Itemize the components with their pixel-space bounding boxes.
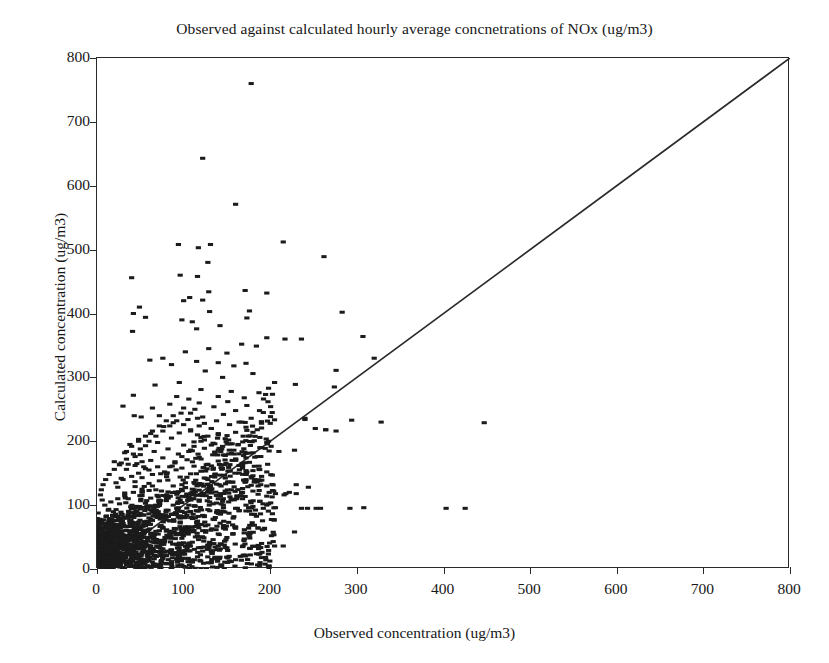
scatter-point: [124, 458, 129, 461]
scatter-point: [240, 487, 245, 490]
scatter-point: [196, 246, 201, 249]
scatter-point: [305, 507, 310, 510]
scatter-point: [136, 472, 141, 475]
x-axis-tick-label: 800: [759, 580, 819, 598]
scatter-point: [129, 475, 134, 478]
scatter-point: [250, 372, 255, 375]
scatter-point: [133, 455, 138, 458]
scatter-point: [155, 441, 160, 444]
scatter-point: [139, 476, 144, 479]
scatter-point: [153, 435, 158, 438]
scatter-point: [243, 504, 248, 507]
y-axis-tick-label: 800: [44, 48, 90, 66]
scatter-point: [206, 290, 211, 293]
scatter-point: [217, 324, 222, 327]
y-axis-tick: [90, 569, 97, 570]
scatter-point: [102, 504, 107, 507]
scatter-point: [299, 338, 304, 341]
scatter-point: [186, 398, 191, 401]
scatter-point: [211, 405, 216, 408]
x-axis-tick-label: 0: [66, 580, 126, 598]
scatter-point: [257, 446, 262, 449]
scatter-point: [250, 431, 255, 434]
scatter-point: [115, 497, 120, 500]
scatter-point: [141, 465, 146, 468]
scatter-point: [360, 335, 365, 338]
y-axis-tick: [90, 122, 97, 123]
scatter-point: [188, 412, 193, 415]
scatter-point: [257, 436, 262, 439]
scatter-canvas: [97, 58, 790, 569]
scatter-point: [272, 381, 277, 384]
scatter-point: [178, 476, 183, 479]
scatter-point: [333, 430, 338, 433]
scatter-point: [191, 465, 196, 468]
scatter-point: [249, 82, 254, 85]
scatter-point: [197, 500, 202, 503]
scatter-point: [216, 395, 221, 398]
x-axis-tick-label: 100: [153, 580, 213, 598]
scatter-point: [333, 369, 338, 372]
scatter-point: [482, 421, 487, 424]
scatter-point: [150, 473, 155, 476]
scatter-point: [379, 421, 384, 424]
scatter-point: [146, 468, 151, 471]
x-axis-tick: [270, 567, 271, 574]
scatter-point: [138, 447, 143, 450]
scatter-point: [179, 318, 184, 321]
scatter-point: [264, 470, 269, 473]
scatter-point: [186, 504, 191, 507]
scatter-point: [165, 447, 170, 450]
scatter-point: [120, 478, 125, 481]
scatter-point: [229, 390, 234, 393]
x-axis-tick: [703, 567, 704, 574]
scatter-point: [98, 493, 103, 496]
scatter-point: [206, 347, 211, 350]
x-axis-tick-label: 400: [413, 580, 473, 598]
scatter-point: [243, 289, 248, 292]
scatter-point: [117, 502, 122, 505]
scatter-point: [261, 507, 266, 510]
scatter-point: [208, 243, 213, 246]
scatter-point: [191, 440, 196, 443]
x-axis-tick: [97, 567, 98, 574]
scatter-point: [202, 447, 207, 450]
scatter-point: [155, 465, 160, 468]
scatter-point: [124, 468, 129, 471]
scatter-point: [323, 428, 328, 431]
scatter-point: [131, 394, 136, 397]
scatter-point: [243, 426, 248, 429]
scatter-point: [292, 530, 297, 533]
y-axis-tick: [90, 505, 97, 506]
plot-area: [96, 57, 789, 568]
scatter-point: [188, 472, 193, 475]
scatter-point: [160, 430, 165, 433]
scatter-point: [152, 384, 157, 387]
scatter-point: [113, 481, 118, 484]
scatter-point: [177, 431, 182, 434]
x-axis-tick: [357, 567, 358, 574]
scatter-point: [124, 450, 129, 453]
scatter-point: [233, 431, 238, 434]
scatter-point: [107, 473, 112, 476]
scatter-point: [244, 404, 249, 407]
scatter-point: [160, 357, 165, 360]
scatter-point: [250, 469, 255, 472]
scatter-point: [195, 417, 200, 420]
scatter-point: [226, 466, 231, 469]
scatter-point: [242, 396, 247, 399]
scatter-point: [294, 483, 299, 486]
scatter-point: [194, 360, 199, 363]
scatter-point: [99, 488, 104, 491]
scatter-point: [216, 432, 221, 435]
x-axis-title: Observed concentration (ug/m3): [0, 624, 829, 642]
scatter-point: [227, 423, 232, 426]
scatter-point: [185, 418, 190, 421]
scatter-point: [233, 409, 238, 412]
scatter-point: [138, 453, 143, 456]
scatter-point: [167, 403, 172, 406]
scatter-point: [231, 449, 236, 452]
scatter-point: [126, 463, 131, 466]
x-axis-tick-labels: 0100200300400500600700800: [96, 580, 789, 604]
scatter-point: [292, 449, 297, 452]
